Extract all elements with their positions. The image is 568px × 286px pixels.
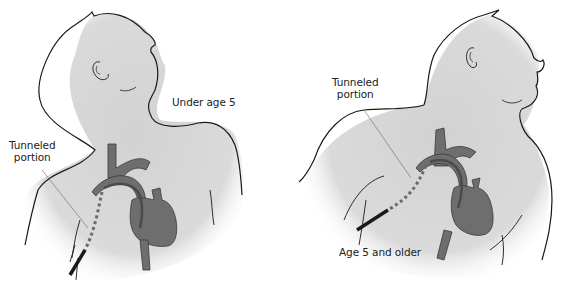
age-label: Under age 5 [172,96,236,108]
body-skin [304,15,549,279]
callout-label: Tunneled portion [9,139,56,163]
callout-label-line1: Tunneled [332,76,379,88]
age-label: Age 5 and older [339,246,421,258]
callout-label: Tunneled portion [332,76,379,100]
callout-label-line2: portion [9,151,56,163]
body-skin [25,13,243,281]
panel-under-age-5: Under age 5 Tunneled portion [0,0,284,286]
callout-label-line1: Tunneled [9,139,56,151]
callout-label-line2: portion [332,88,379,100]
older-child-illustration [284,0,568,286]
panel-age-5-and-older: Age 5 and older Tunneled portion [284,0,568,286]
